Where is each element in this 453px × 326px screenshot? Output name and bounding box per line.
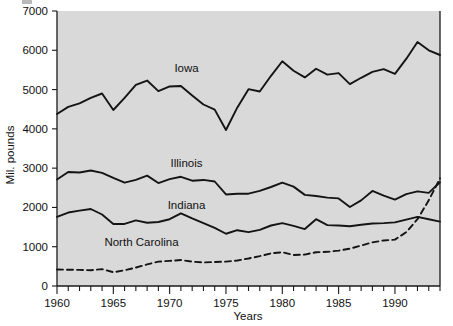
y-tick-label: 5000 [22,84,48,96]
y-tick-label: 6000 [22,44,48,56]
y-tick-label: 4000 [22,123,48,135]
line-chart: 01000200030004000500060007000 1960196519… [0,0,453,326]
x-tick-label: 1985 [326,297,352,309]
x-tick-label: 1975 [213,297,239,309]
series-label-indiana: Indiana [168,199,206,211]
chart-figure: 01000200030004000500060007000 1960196519… [0,0,453,326]
y-tick-label: 0 [42,280,48,292]
x-axis-title: Years [234,310,263,322]
y-tick-label: 1000 [22,241,48,253]
series-label-north-carolina: North Carolina [104,236,179,248]
y-tick-label: 2000 [22,201,48,213]
x-tick-label: 1960 [44,297,70,309]
series-label-illinois: Illinois [171,157,203,169]
y-axis-title: Mil. pounds [4,125,16,184]
x-tick-label: 1990 [382,297,408,309]
series-label-iowa: Iowa [174,62,199,74]
x-tick-label: 1980 [269,297,295,309]
y-tick-label: 7000 [22,5,48,17]
x-tick-label: 1965 [101,297,127,309]
x-tick-label: 1970 [157,297,183,309]
top-left-artifact [22,0,32,4]
y-tick-label: 3000 [22,162,48,174]
